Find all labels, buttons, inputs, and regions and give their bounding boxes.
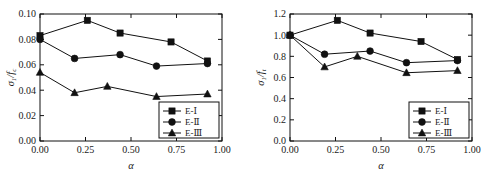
data-point-triangle-2-4 — [454, 67, 461, 74]
data-point-circle-1-4 — [204, 60, 211, 67]
legend-label-1: E-Ⅱ — [185, 117, 200, 127]
y-axis-title: σ1/ft — [255, 68, 269, 86]
right-chart-svg: 0.000.250.500.751.000.00.20.40.60.81.01.… — [248, 0, 497, 181]
data-point-triangle-2-2 — [354, 52, 361, 59]
data-point-square-0-2 — [367, 30, 373, 36]
data-point-circle-1-2 — [367, 48, 374, 55]
chart-panel-left: 0.000.250.500.751.000.000.020.040.060.08… — [0, 0, 248, 181]
data-point-square-0-2 — [117, 30, 123, 36]
y-tick-label-5: 1.0 — [274, 30, 287, 41]
data-point-triangle-2-0 — [36, 69, 43, 76]
data-point-square-0-3 — [418, 38, 424, 44]
y-tick-label-2: 0.04 — [19, 85, 37, 96]
x-tick-label-3: 0.75 — [168, 144, 186, 155]
chart-panel-right: 0.000.250.500.751.000.00.20.40.60.81.01.… — [248, 0, 496, 181]
data-point-circle-1-3 — [153, 63, 160, 70]
data-point-circle-legend-1 — [419, 119, 426, 126]
x-tick-label-2: 0.50 — [122, 144, 140, 155]
y-title-den-sub: t — [260, 68, 268, 71]
left-chart-svg: 0.000.250.500.751.000.000.020.040.060.08… — [0, 0, 248, 181]
data-point-square-legend-0 — [419, 108, 425, 114]
x-tick-label-4: 1.00 — [213, 144, 231, 155]
y-axis-title: σ1/fc — [5, 68, 19, 87]
x-tick-label-2: 0.50 — [372, 144, 390, 155]
data-point-circle-1-2 — [117, 51, 124, 58]
y-tick-label-4: 0.08 — [19, 34, 37, 45]
data-point-circle-1-3 — [403, 59, 410, 66]
data-point-circle-1-0 — [37, 36, 44, 43]
x-tick-label-1: 0.25 — [77, 144, 95, 155]
y-tick-label-1: 0.02 — [19, 110, 37, 121]
y-title-den-sub: c — [10, 68, 18, 72]
data-point-circle-legend-1 — [169, 119, 176, 126]
legend-label-0: E-Ⅰ — [185, 106, 197, 116]
x-tick-label-4: 1.00 — [463, 144, 481, 155]
legend-label-2: E-Ⅲ — [185, 128, 202, 138]
y-tick-label-5: 0.10 — [19, 8, 37, 19]
y-axis-title-text: σ1/ft — [255, 68, 269, 86]
data-point-triangle-2-2 — [104, 82, 111, 89]
series-line-0 — [290, 20, 457, 59]
figure-panels: 0.000.250.500.751.000.000.020.040.060.08… — [0, 0, 497, 181]
legend-label-2: E-Ⅲ — [435, 128, 452, 138]
x-tick-label-3: 0.75 — [418, 144, 436, 155]
y-tick-label-4: 0.8 — [274, 51, 287, 62]
x-tick-label-1: 0.25 — [327, 144, 345, 155]
y-axis-title-text: σ1/fc — [5, 68, 19, 87]
y-tick-label-2: 0.4 — [274, 93, 287, 104]
data-point-circle-1-1 — [71, 55, 78, 62]
data-point-triangle-2-4 — [204, 90, 211, 97]
y-tick-label-0: 0.00 — [19, 135, 37, 146]
legend-label-1: E-Ⅱ — [435, 117, 450, 127]
data-point-circle-1-1 — [321, 51, 328, 58]
y-tick-label-1: 0.2 — [274, 114, 287, 125]
series-line-2 — [40, 72, 207, 96]
y-tick-label-3: 0.06 — [19, 59, 37, 70]
legend-label-0: E-Ⅰ — [435, 106, 447, 116]
series-line-2 — [290, 35, 457, 73]
data-point-square-0-1 — [334, 17, 340, 23]
data-point-square-0-1 — [84, 17, 90, 23]
x-axis-title: α — [378, 160, 384, 171]
data-point-circle-1-4 — [454, 57, 461, 64]
y-tick-label-6: 1.2 — [274, 8, 287, 19]
data-point-square-0-3 — [168, 39, 174, 45]
data-point-square-legend-0 — [169, 108, 175, 114]
x-axis-title: α — [128, 160, 134, 171]
y-tick-label-0: 0.0 — [274, 135, 287, 146]
y-tick-label-3: 0.6 — [274, 72, 287, 83]
series-line-1 — [40, 39, 207, 66]
